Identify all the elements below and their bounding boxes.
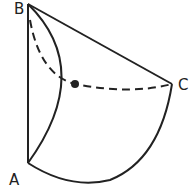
label-c: C <box>178 76 188 94</box>
geometry-diagram: B A C <box>0 0 194 196</box>
arc-ba <box>28 4 62 163</box>
segment-bc <box>28 4 172 84</box>
label-b: B <box>14 0 24 18</box>
label-a: A <box>9 171 20 189</box>
dashed-arc-bc <box>30 20 172 90</box>
arc-ac <box>28 84 172 183</box>
intersection-point <box>71 80 79 88</box>
